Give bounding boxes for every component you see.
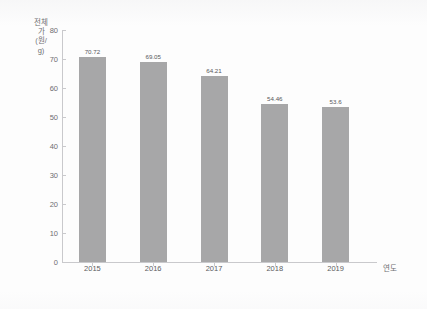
y-axis-tick-label: 50 (50, 113, 58, 122)
bar-value-label: 53.6 (330, 98, 342, 105)
y-axis-tick: 80 (50, 21, 62, 39)
bar: 54.46 (261, 104, 288, 262)
bar: 64.21 (201, 76, 228, 262)
y-axis-tick-mark (62, 117, 66, 118)
y-axis-tick-label: 30 (50, 171, 58, 180)
y-axis-tick: 50 (50, 108, 62, 126)
y-axis-tick-mark (62, 175, 66, 176)
bar-value-label: 69.05 (145, 53, 160, 60)
y-axis-tick: 60 (50, 79, 62, 97)
y-axis-tick: 20 (50, 195, 62, 213)
y-axis-tick-mark (62, 233, 66, 234)
y-axis-tick: 40 (50, 137, 62, 155)
x-axis-line (62, 262, 377, 263)
y-axis-tick-mark (62, 30, 66, 31)
bar: 53.6 (322, 107, 349, 262)
bar: 69.05 (140, 62, 167, 262)
y-axis-tick: 0 (54, 253, 62, 271)
y-axis-tick-label: 0 (54, 258, 58, 267)
y-axis-tick: 10 (50, 224, 62, 242)
x-axis-tick-label: 2018 (266, 264, 283, 273)
y-axis-tick-label: 80 (50, 26, 58, 35)
bar-value-label: 70.72 (85, 48, 100, 55)
x-axis-tick-label: 2017 (206, 264, 223, 273)
x-axis-tick-label: 2016 (145, 264, 162, 273)
y-axis-tick: 30 (50, 166, 62, 184)
y-axis-tick: 70 (50, 50, 62, 68)
y-axis-tick-label: 20 (50, 200, 58, 209)
y-axis-tick-label: 70 (50, 55, 58, 64)
plot-area: 0102030405060708070.7269.0564.2154.4653.… (62, 30, 366, 262)
bar-value-label: 54.46 (267, 95, 282, 102)
x-axis-title: 연도 (383, 262, 397, 273)
y-axis-title: 전체가(원/g) (33, 18, 49, 55)
y-axis-tick-mark (62, 204, 66, 205)
x-axis-tick-label: 2019 (327, 264, 344, 273)
bar: 70.72 (79, 57, 106, 262)
y-axis-tick-label: 60 (50, 84, 58, 93)
y-axis-tick-mark (62, 146, 66, 147)
bar-chart: 전체가(원/g) 0102030405060708070.7269.0564.2… (0, 0, 427, 309)
y-axis-tick-label: 10 (50, 229, 58, 238)
y-axis-tick-mark (62, 59, 66, 60)
bar-value-label: 64.21 (206, 67, 221, 74)
y-axis-tick-mark (62, 88, 66, 89)
y-axis-tick-mark (62, 262, 66, 263)
y-axis-tick-label: 40 (50, 142, 58, 151)
x-axis-tick-label: 2015 (84, 264, 101, 273)
